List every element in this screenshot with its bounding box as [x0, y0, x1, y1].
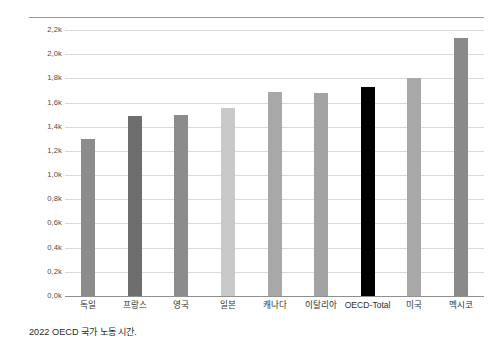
x-axis-tick-label: 멕시코 — [449, 299, 473, 311]
y-axis-tick-label: 0,6k — [28, 219, 62, 227]
x-axis-tick-label: 일본 — [220, 299, 236, 311]
y-axis-tick-label: 1,6k — [28, 99, 62, 107]
bar[interactable] — [454, 38, 468, 296]
y-axis-tick-label: 2,0k — [28, 50, 62, 58]
y-axis-tick-label: 1,2k — [28, 147, 62, 155]
x-axis-tick-label: 영국 — [173, 299, 189, 311]
bar[interactable] — [407, 78, 421, 296]
bar[interactable] — [221, 108, 235, 296]
bar[interactable] — [268, 92, 282, 296]
grid-area — [65, 30, 484, 296]
x-axis-tick-label: 캐나다 — [263, 299, 287, 311]
figure-caption: 2022 OECD 국가 노동 시간. — [29, 326, 137, 339]
axis-baseline — [65, 296, 484, 297]
bar[interactable] — [314, 93, 328, 296]
x-axis-tick-label: 이탈리아 — [305, 299, 337, 311]
y-axis: 2,2k2,0k1,8k1,6k1,4k1,2k1,0k0,8k0,6k0,4k… — [29, 30, 65, 296]
y-axis-tick-label: 0,0k — [28, 292, 62, 300]
plot-area: 2,2k2,0k1,8k1,6k1,4k1,2k1,0k0,8k0,6k0,4k… — [29, 30, 484, 296]
x-axis-tick-label: 미국 — [406, 299, 422, 311]
x-axis-tick-label: OECD-Total — [345, 299, 391, 311]
x-axis: 독일프랑스영국일본캐나다이탈리아OECD-Total미국멕시코 — [65, 299, 484, 317]
bar[interactable] — [128, 116, 142, 296]
y-axis-tick-label: 2,2k — [28, 26, 62, 34]
chart-figure: 2,2k2,0k1,8k1,6k1,4k1,2k1,0k0,8k0,6k0,4k… — [0, 0, 497, 350]
y-axis-tick-label: 1,8k — [28, 74, 62, 82]
x-axis-tick-label: 프랑스 — [123, 299, 147, 311]
y-axis-tick-label: 1,4k — [28, 123, 62, 131]
bar[interactable] — [174, 115, 188, 296]
bar[interactable] — [361, 87, 375, 296]
bar-series — [65, 30, 484, 296]
x-axis-tick-label: 독일 — [80, 299, 96, 311]
y-axis-tick-label: 1,0k — [28, 171, 62, 179]
bar[interactable] — [81, 139, 95, 296]
y-axis-tick-label: 0,4k — [28, 244, 62, 252]
y-axis-tick-label: 0,2k — [28, 268, 62, 276]
y-axis-tick-label: 0,8k — [28, 195, 62, 203]
figure-top-rule — [29, 17, 484, 18]
